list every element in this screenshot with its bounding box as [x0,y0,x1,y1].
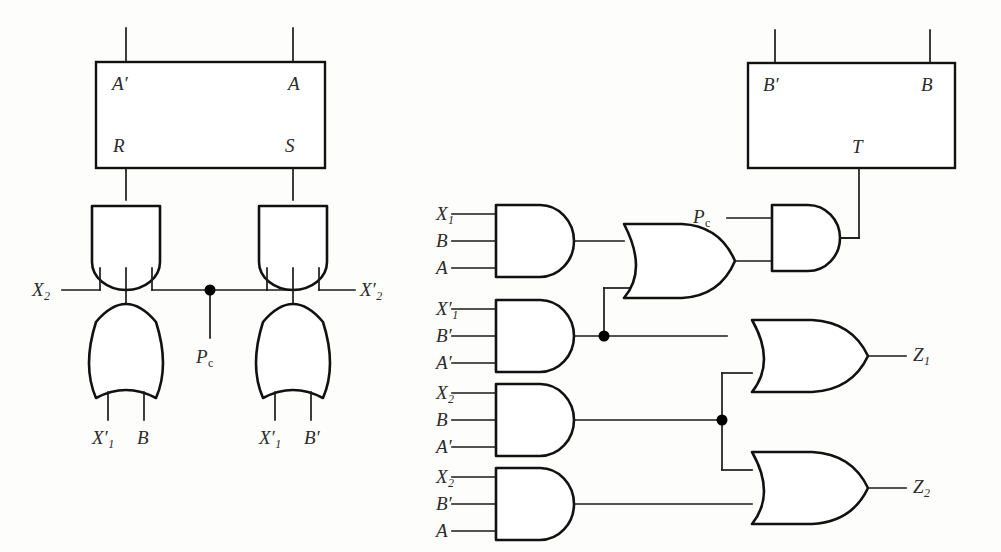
and4-input-1: X2 [436,467,454,489]
junction-dot-and3 [717,415,728,426]
box-label-a-prime: A′ [112,74,128,93]
or-gate-right [256,304,330,398]
and-gate-1 [496,205,574,277]
and-gate-2 [496,300,574,372]
and2-input-3: A′ [436,353,452,372]
and4-input-2: B′ [436,494,452,513]
or-gate-z1 [752,320,868,392]
and-gate-pc [772,205,840,271]
or-gate-z2 [752,452,868,524]
box-label-s: S [285,136,295,155]
and1-input-3: A [436,258,448,277]
output-label-z2: Z2 [913,477,930,499]
and3-input-2: B [436,410,448,429]
and-pc-input-label: Pc [693,207,710,229]
and-gate-4 [496,468,574,540]
input-label-x2: X2 [32,280,50,302]
and3-input-3: A′ [436,437,452,456]
and2-input-2: B′ [436,326,452,345]
circuit-svg [0,0,1001,552]
junction-dot-pc [205,285,216,296]
box-label-a: A [288,74,300,93]
box-label-t: T [852,137,863,156]
or-right-input-2: B′ [304,428,320,447]
and1-input-1: X1 [436,204,454,226]
box-label-b: B [921,75,933,94]
right-circuit-group [452,30,955,540]
signal-label-pc: Pc [196,347,213,369]
input-label-x2-prime: X′2 [360,280,382,302]
or-right-input-1: X′1 [259,428,281,450]
or-left-input-2: B [137,428,149,447]
junction-dot-and2 [599,331,610,342]
or-gate-left [89,304,163,398]
output-label-z1: Z1 [913,345,930,367]
and4-input-3: A [436,521,448,540]
and-gate-3 [496,384,574,456]
circuit-diagram-canvas: A′ A R S X2 X′2 Pc X′1 B X′1 B′ B′ B T X… [0,0,1001,552]
or-left-input-1: X′1 [92,428,114,450]
or-gate-top [624,224,735,298]
and2-input-1: X′1 [436,299,458,321]
and3-input-1: X2 [436,383,454,405]
and1-input-2: B [436,231,448,250]
box-label-b-prime: B′ [763,75,779,94]
box-label-r: R [113,136,125,155]
